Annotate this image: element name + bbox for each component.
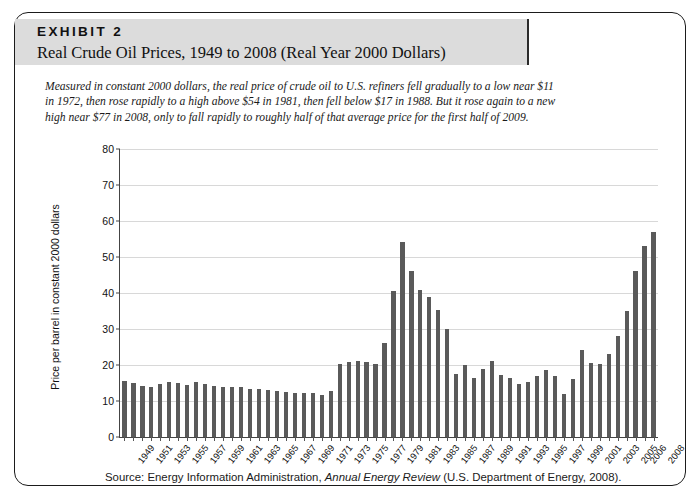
bar: [320, 395, 324, 437]
x-tick-label: 1949: [136, 443, 157, 465]
exhibit-label: EXHIBIT 2: [37, 23, 527, 41]
bar: [176, 383, 180, 437]
x-tick-mark: [492, 437, 493, 441]
x-tick-label: 1965: [280, 443, 301, 465]
x-tick-mark: [519, 437, 520, 441]
y-tick-label: 60: [102, 215, 114, 227]
x-tick-mark: [205, 437, 206, 441]
x-tick-mark: [600, 437, 601, 441]
x-tick-mark: [636, 437, 637, 441]
x-tick-mark: [304, 437, 305, 441]
y-tick-label: 70: [102, 179, 114, 191]
y-tick-mark: [116, 329, 120, 330]
x-tick-label: 1981: [423, 443, 444, 465]
x-tick-label: 2008: [665, 443, 686, 465]
x-tick-mark: [169, 437, 170, 441]
x-tick-label: 1983: [441, 443, 462, 465]
x-tick-mark: [196, 437, 197, 441]
bar: [642, 246, 646, 437]
exhibit-card: EXHIBIT 2 Real Crude Oil Prices, 1949 to…: [14, 12, 686, 486]
x-tick-label: 2003: [621, 443, 642, 465]
x-tick-mark: [474, 437, 475, 441]
x-tick-mark: [322, 437, 323, 441]
bar: [571, 379, 575, 437]
chart-plot-area: 0102030405060708019491951195319551957195…: [119, 149, 658, 438]
x-tick-mark: [313, 437, 314, 441]
y-tick-mark: [116, 149, 120, 150]
x-tick-label: 1995: [549, 443, 570, 465]
y-tick-label: 20: [102, 359, 114, 371]
x-tick-mark: [564, 437, 565, 441]
x-tick-mark: [618, 437, 619, 441]
x-tick-mark: [609, 437, 610, 441]
bar: [230, 387, 234, 437]
x-tick-label: 1985: [459, 443, 480, 465]
x-tick-label: 1957: [208, 443, 229, 465]
bar: [284, 392, 288, 437]
bar: [302, 393, 306, 437]
x-tick-label: 1997: [567, 443, 588, 465]
bar: [391, 291, 395, 437]
bar: [248, 389, 252, 437]
x-tick-label: 1969: [316, 443, 337, 465]
bar: [382, 343, 386, 437]
y-tick-mark: [116, 437, 120, 438]
bar: [221, 387, 225, 437]
bar: [633, 271, 637, 437]
x-tick-label: 1975: [370, 443, 391, 465]
y-tick-label: 80: [102, 143, 114, 155]
bar: [203, 384, 207, 437]
x-tick-mark: [510, 437, 511, 441]
x-tick-mark: [160, 437, 161, 441]
gridline: [120, 257, 658, 258]
bar: [239, 387, 243, 437]
bar: [293, 393, 297, 437]
x-tick-label: 1967: [298, 443, 319, 465]
y-tick-label: 0: [108, 431, 114, 443]
y-tick-mark: [116, 185, 120, 186]
x-tick-mark: [483, 437, 484, 441]
bar: [454, 374, 458, 437]
bar: [490, 361, 494, 437]
x-tick-mark: [367, 437, 368, 441]
gridline: [120, 149, 658, 150]
bar: [347, 362, 351, 437]
bar: [338, 364, 342, 437]
bar: [562, 394, 566, 437]
x-tick-mark: [340, 437, 341, 441]
x-tick-mark: [627, 437, 628, 441]
x-tick-mark: [501, 437, 502, 441]
bar: [553, 376, 557, 437]
x-tick-mark: [573, 437, 574, 441]
x-tick-label: 1979: [405, 443, 426, 465]
bar: [185, 385, 189, 437]
bar: [275, 391, 279, 437]
x-tick-label: 1993: [531, 443, 552, 465]
y-tick-label: 40: [102, 287, 114, 299]
bar: [212, 386, 216, 437]
bar: [329, 391, 333, 437]
x-tick-label: 1971: [334, 443, 355, 465]
x-tick-mark: [456, 437, 457, 441]
bar: [140, 386, 144, 437]
x-tick-mark: [250, 437, 251, 441]
y-tick-label: 30: [102, 323, 114, 335]
y-tick-mark: [116, 221, 120, 222]
bar: [400, 242, 404, 437]
bar: [598, 364, 602, 437]
x-tick-mark: [393, 437, 394, 441]
source-suffix: (U.S. Department of Energy, 2008).: [443, 471, 621, 483]
x-tick-label: 1955: [190, 443, 211, 465]
bar: [544, 370, 548, 437]
bar: [445, 329, 449, 437]
bar: [131, 383, 135, 437]
x-tick-mark: [645, 437, 646, 441]
bar: [481, 369, 485, 437]
gridline: [120, 221, 658, 222]
bar: [508, 378, 512, 437]
bar: [149, 387, 153, 437]
gridline: [120, 329, 658, 330]
x-tick-label: 1991: [513, 443, 534, 465]
y-tick-mark: [116, 293, 120, 294]
x-tick-mark: [546, 437, 547, 441]
